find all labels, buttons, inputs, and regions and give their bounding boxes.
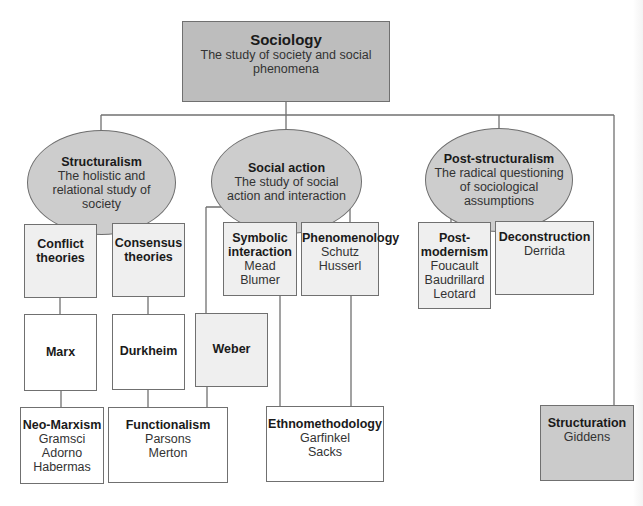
weber-title: Weber (196, 342, 267, 356)
functionalism-name-2: Merton (109, 446, 227, 460)
consensus-title-1: Consensus (113, 236, 184, 250)
structuration-title: Structuration (541, 416, 633, 430)
conflict-title-1: Conflict (25, 237, 96, 251)
deconstruction-name-1: Derrida (496, 244, 593, 258)
ethnomethodology-name-2: Sacks (267, 445, 383, 459)
postmodernism-name-1: Foucault (419, 259, 490, 273)
box-structuration: Structuration Giddens (540, 405, 634, 481)
ellipse-structuralism: Structuralism The holistic and relationa… (27, 130, 176, 235)
postmodernism-title-1: Post- (419, 231, 490, 245)
postmodernism-title-2: modernism (419, 245, 490, 259)
box-conflict-theories: Conflict theories (24, 224, 97, 298)
box-ethnomethodology: Ethnomethodology Garfinkel Sacks (266, 406, 384, 482)
social-action-title: Social action (248, 161, 325, 175)
consensus-title-2: theories (113, 250, 184, 264)
post-structuralism-desc-2: of sociological (452, 180, 547, 194)
symbolic-title-1: Symbolic (224, 231, 296, 245)
post-structuralism-desc-1: The radical questioning (426, 166, 571, 180)
postmodernism-name-2: Baudrillard (419, 273, 490, 287)
structuralism-desc-2: relational study of (45, 183, 159, 197)
box-symbolic-interaction: Symbolic interaction Mead Blumer (223, 222, 297, 296)
root-subtitle-line2: phenomena (183, 62, 389, 76)
neo-marxism-name-2: Adorno (21, 446, 103, 460)
conflict-title-2: theories (25, 251, 96, 265)
post-structuralism-desc-3: assumptions (456, 194, 542, 208)
root-title: Sociology (183, 31, 389, 48)
social-action-desc-2: action and interaction (219, 189, 354, 203)
box-consensus-theories: Consensus theories (112, 223, 185, 297)
symbolic-title-2: interaction (224, 245, 296, 259)
ellipse-post-structuralism: Post-structuralism The radical questioni… (425, 128, 573, 232)
functionalism-name-1: Parsons (109, 432, 227, 446)
root-node-sociology: Sociology The study of society and socia… (182, 21, 390, 102)
box-neo-marxism: Neo-Marxism Gramsci Adorno Habermas (20, 407, 104, 484)
phenomenology-name-1: Schutz (302, 245, 378, 259)
neo-marxism-title: Neo-Marxism (21, 418, 103, 432)
ellipse-social-action: Social action The study of social action… (211, 129, 362, 234)
durkheim-title: Durkheim (113, 344, 184, 358)
symbolic-name-2: Blumer (224, 273, 296, 287)
functionalism-title: Functionalism (109, 418, 227, 432)
neo-marxism-name-3: Habermas (21, 460, 103, 474)
phenomenology-title: Phenomenology (302, 231, 378, 245)
box-postmodernism: Post- modernism Foucault Baudrillard Leo… (418, 222, 491, 309)
phenomenology-name-2: Husserl (302, 259, 378, 273)
structuration-name-1: Giddens (541, 430, 633, 444)
marx-title: Marx (25, 345, 96, 359)
ethnomethodology-title: Ethnomethodology (267, 417, 383, 431)
root-subtitle-line1: The study of society and social (183, 48, 389, 62)
box-deconstruction: Deconstruction Derrida (495, 221, 594, 295)
structuralism-desc-3: society (74, 197, 129, 211)
deconstruction-title: Deconstruction (496, 230, 593, 244)
box-functionalism: Functionalism Parsons Merton (108, 407, 228, 483)
neo-marxism-name-1: Gramsci (21, 432, 103, 446)
box-durkheim: Durkheim (112, 314, 185, 390)
structuralism-desc-1: The holistic and (50, 169, 154, 183)
box-weber: Weber (195, 313, 268, 387)
box-phenomenology: Phenomenology Schutz Husserl (301, 222, 379, 296)
postmodernism-name-3: Leotard (419, 287, 490, 301)
ethnomethodology-name-1: Garfinkel (267, 431, 383, 445)
post-structuralism-title: Post-structuralism (444, 152, 554, 166)
symbolic-name-1: Mead (224, 259, 296, 273)
structuralism-title: Structuralism (61, 155, 142, 169)
box-marx: Marx (24, 314, 97, 391)
social-action-desc-1: The study of social (226, 175, 346, 189)
